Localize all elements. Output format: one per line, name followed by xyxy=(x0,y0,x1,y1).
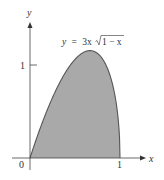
svg-text:y = 3x: y = 3x xyxy=(61,37,92,47)
svg-text:1 − x: 1 − x xyxy=(102,37,122,47)
x-axis-label: x xyxy=(148,153,154,164)
y-axis-arrow-icon xyxy=(28,22,33,28)
y-tick-label-1: 1 xyxy=(20,60,25,71)
equation-label: y = 3x 1 − x xyxy=(61,36,124,48)
area-chart: y x 0 1 1 y = 3x 1 − x xyxy=(0,0,164,180)
x-axis-arrow-icon xyxy=(140,156,146,161)
x-tick-label-1: 1 xyxy=(117,159,122,170)
origin-label: 0 xyxy=(19,159,24,170)
y-axis-label: y xyxy=(26,7,32,18)
